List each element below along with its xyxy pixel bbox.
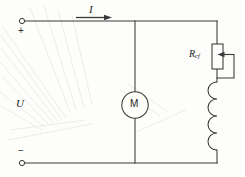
rheostat-subscript: cf [195, 52, 200, 59]
rheostat-body [212, 44, 223, 69]
rheostat-label: Rcf [189, 49, 200, 60]
field-winding-coil [208, 82, 217, 150]
current-label: I [89, 4, 93, 15]
current-arrow-icon [76, 15, 112, 21]
negative-terminal-node [19, 160, 24, 165]
circuit-diagram-figure: I U + − Rcf M [0, 0, 245, 177]
circuit-wires [24, 21, 217, 163]
motor-label: M [130, 99, 138, 109]
voltage-label: U [16, 98, 24, 109]
circuit-schematic-svg [0, 0, 245, 177]
negative-terminal-label: − [18, 146, 24, 156]
positive-terminal-label: + [18, 26, 24, 36]
scan-watermark [0, 6, 186, 140]
positive-terminal-node [19, 18, 24, 23]
